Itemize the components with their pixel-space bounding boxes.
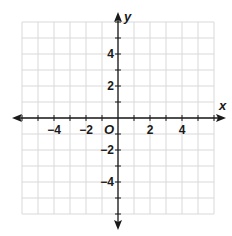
- x-tick-label: −4: [47, 123, 61, 137]
- y-tick-label: 4: [107, 47, 114, 61]
- origin-label: O: [104, 122, 114, 137]
- x-tick-label: 2: [147, 123, 154, 137]
- y-tick-label: −2: [100, 143, 114, 157]
- coordinate-plane: −4−22442−2−4 x y O: [0, 0, 232, 236]
- x-tick-label: 4: [179, 123, 186, 137]
- x-tick-label: −2: [79, 123, 93, 137]
- y-axis-label: y: [123, 9, 132, 24]
- y-tick-label: 2: [107, 79, 114, 93]
- y-tick-label: −4: [100, 175, 114, 189]
- axes: [12, 12, 226, 230]
- x-axis-label: x: [218, 98, 227, 113]
